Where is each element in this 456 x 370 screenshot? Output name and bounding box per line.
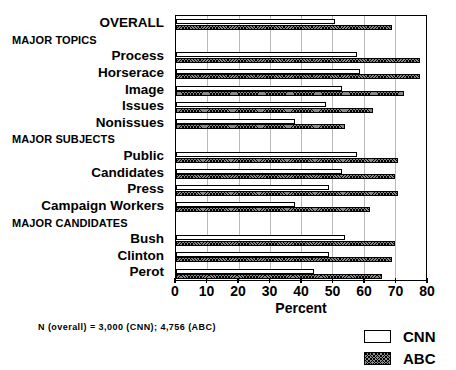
bar-cnn (176, 19, 335, 24)
category-label: Image (0, 82, 170, 99)
bar-group-row (176, 249, 426, 266)
bar-abc (176, 25, 392, 30)
bar-abc (176, 191, 398, 196)
bar-cnn (176, 202, 295, 207)
bar-group-row (176, 166, 426, 183)
x-tick-label: 50 (325, 283, 341, 299)
bar-abc (176, 241, 395, 246)
x-tick-label: 60 (356, 283, 372, 299)
bar-group-row (176, 216, 426, 233)
bar-group-row (176, 99, 426, 116)
category-label: Issues (0, 98, 170, 115)
bar-group-row (176, 132, 426, 149)
category-label: Clinton (0, 248, 170, 265)
bar-abc (176, 124, 345, 129)
bar-group-row (176, 66, 426, 83)
bar-cnn (176, 69, 360, 74)
bar-group-row (176, 116, 426, 133)
group-label: MAJOR CANDIDATES (0, 215, 170, 232)
x-tick-label: 10 (199, 283, 215, 299)
bar-cnn (176, 152, 357, 157)
category-label: Perot (0, 264, 170, 281)
bar-group-row (176, 83, 426, 100)
bar-group-row (176, 199, 426, 216)
x-tick-label: 40 (293, 283, 309, 299)
bar-abc (176, 74, 420, 79)
plot-area (175, 15, 427, 281)
category-label: Candidates (0, 165, 170, 182)
bar-group-row (176, 49, 426, 66)
bar-group-row (176, 16, 426, 33)
bar-group-row (176, 149, 426, 166)
category-label: Bush (0, 231, 170, 248)
bar-abc (176, 91, 404, 96)
bar-abc (176, 58, 420, 63)
x-tick-label: 0 (171, 283, 179, 299)
bar-cnn (176, 185, 329, 190)
bar-cnn (176, 102, 326, 107)
bar-cnn (176, 119, 295, 124)
legend-item-cnn[interactable]: CNN (364, 325, 436, 347)
grouped-bar-chart: OVERALLMAJOR TOPICSProcessHorseraceImage… (0, 0, 456, 370)
category-label-column: OVERALLMAJOR TOPICSProcessHorseraceImage… (0, 15, 170, 281)
x-tick-label: 80 (419, 283, 435, 299)
bar-group-row (176, 232, 426, 249)
bar-abc (176, 174, 395, 179)
bar-cnn (176, 86, 342, 91)
bar-group-row (176, 33, 426, 50)
bar-cnn (176, 52, 357, 57)
category-label: OVERALL (0, 15, 170, 32)
bar-cnn (176, 169, 342, 174)
x-axis-ticks: 01020304050607080 (175, 283, 427, 301)
chart-legend: CNN ABC (364, 325, 436, 369)
bar-cnn (176, 235, 345, 240)
category-label: Public (0, 148, 170, 165)
group-label: MAJOR SUBJECTS (0, 131, 170, 148)
category-label: Process (0, 48, 170, 65)
bar-cnn (176, 252, 329, 257)
x-tick-label: 30 (262, 283, 278, 299)
x-axis-title: Percent (175, 300, 427, 316)
legend-item-abc[interactable]: ABC (364, 347, 436, 369)
category-label: Horserace (0, 65, 170, 82)
bar-abc (176, 158, 398, 163)
bar-cnn (176, 269, 314, 274)
bar-group-row (176, 182, 426, 199)
legend-label-abc: ABC (403, 350, 436, 367)
legend-label-cnn: CNN (403, 328, 436, 345)
category-label: Nonissues (0, 115, 170, 132)
legend-swatch-abc-icon (364, 352, 391, 365)
bar-abc (176, 108, 373, 113)
category-label: Press (0, 181, 170, 198)
group-label: MAJOR TOPICS (0, 32, 170, 49)
category-label: Campaign Workers (0, 198, 170, 215)
bar-abc (176, 257, 392, 262)
sample-size-footnote: N (overall) = 3,000 (CNN); 4,756 (ABC) (38, 322, 216, 332)
x-tick-label: 70 (388, 283, 404, 299)
legend-swatch-cnn-icon (364, 330, 391, 343)
x-tick-label: 20 (230, 283, 246, 299)
bar-abc (176, 207, 370, 212)
